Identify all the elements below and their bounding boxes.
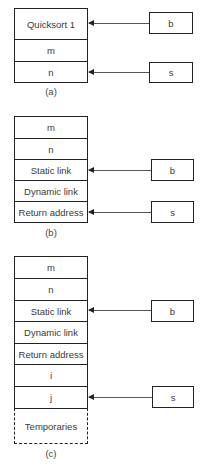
diagram-caption: (c): [14, 448, 88, 459]
stack-cell-static-link: Static link: [14, 159, 88, 181]
pointer-box-s: s: [152, 386, 194, 408]
stack-cell-n: n: [14, 61, 88, 83]
stack-cell-return-address: Return address: [14, 201, 88, 223]
stack-cell-dynamic-link: Dynamic link: [14, 321, 88, 344]
pointer-arrow-b: [89, 23, 149, 24]
arrowhead-icon: [88, 69, 94, 75]
pointer-box-s: s: [149, 62, 193, 83]
pointer-box-b: b: [149, 12, 193, 34]
pointer-arrow-s: [89, 72, 149, 73]
pointer-arrow-b: [89, 170, 151, 171]
arrowhead-icon: [88, 20, 94, 26]
stack-cell-dynamic-link: Dynamic link: [14, 180, 88, 202]
stack-cell-quicksort-1: Quicksort 1: [14, 8, 88, 40]
diagram-caption: (a): [14, 86, 88, 97]
stack-cell-n: n: [14, 138, 88, 160]
diagram-caption: (b): [14, 227, 88, 238]
pointer-arrow-b: [89, 310, 151, 311]
stack-cell-m: m: [14, 39, 88, 62]
pointer-arrow-s: [89, 212, 151, 213]
arrowhead-icon: [88, 394, 94, 400]
stack-cell-i: i: [14, 364, 88, 387]
stack-cell-static-link: Static link: [14, 300, 88, 322]
stack-cell-n: n: [14, 278, 88, 301]
stack-cell-m: m: [14, 116, 88, 139]
pointer-box-s: s: [151, 201, 194, 223]
stack-cell-return-address: Return address: [14, 343, 88, 365]
arrowhead-icon: [88, 167, 94, 173]
pointer-arrow-s: [89, 397, 152, 398]
arrowhead-icon: [88, 209, 94, 215]
arrowhead-icon: [88, 307, 94, 313]
stack-cell-m: m: [14, 256, 88, 279]
pointer-box-b: b: [151, 159, 194, 181]
stack-cell-temporaries: Temporaries: [14, 408, 88, 444]
stack-cell-j: j: [14, 386, 88, 409]
pointer-box-b: b: [151, 300, 194, 322]
